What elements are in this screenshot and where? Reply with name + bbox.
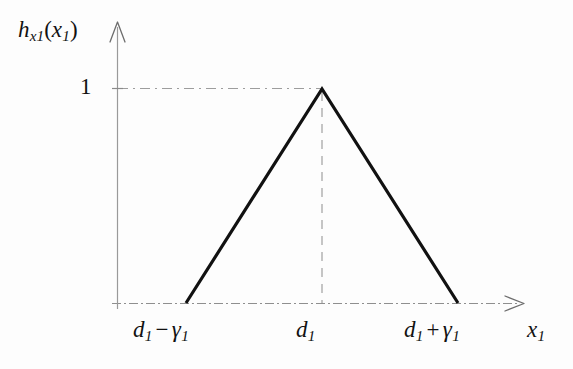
y-axis-label-base: h bbox=[18, 17, 30, 42]
x-tick-right-term-subscript: 1 bbox=[452, 327, 460, 344]
triangular-membership-function-figure: hx1(x1) 1 d1−γ1 d1 d1+γ1 x1 bbox=[0, 0, 573, 369]
x-tick-right-operator: + bbox=[423, 317, 442, 342]
y-axis-label: hx1(x1) bbox=[18, 18, 78, 41]
x-tick-label-upper-bound: d1+γ1 bbox=[404, 318, 460, 341]
x-tick-center-base-subscript: 1 bbox=[308, 327, 316, 344]
y-tick-label-one: 1 bbox=[80, 75, 92, 98]
x-tick-left-operator: − bbox=[152, 317, 171, 342]
x-tick-left-term-subscript: 1 bbox=[181, 327, 189, 344]
y-axis-label-arg-subscript: 1 bbox=[62, 27, 70, 44]
x-axis-label-subscript: 1 bbox=[537, 327, 545, 344]
x-tick-left-base: d bbox=[133, 317, 145, 342]
y-axis-label-paren-close: ) bbox=[70, 17, 78, 42]
x-tick-center-base: d bbox=[296, 317, 308, 342]
x-tick-right-base: d bbox=[404, 317, 416, 342]
y-axis-label-paren-open: ( bbox=[44, 17, 52, 42]
x-axis bbox=[112, 296, 524, 311]
x-axis-label: x1 bbox=[527, 318, 545, 341]
y-axis-label-base-subscript: x1 bbox=[30, 27, 45, 44]
x-tick-right-term: γ bbox=[443, 317, 452, 342]
y-axis bbox=[110, 22, 125, 309]
y-axis-label-arg: x bbox=[52, 17, 62, 42]
plot-canvas bbox=[0, 0, 573, 369]
x-axis-label-base: x bbox=[527, 317, 537, 342]
x-tick-label-lower-bound: d1−γ1 bbox=[133, 318, 189, 341]
x-tick-label-center-d1: d1 bbox=[296, 318, 315, 341]
x-tick-left-term: γ bbox=[172, 317, 181, 342]
